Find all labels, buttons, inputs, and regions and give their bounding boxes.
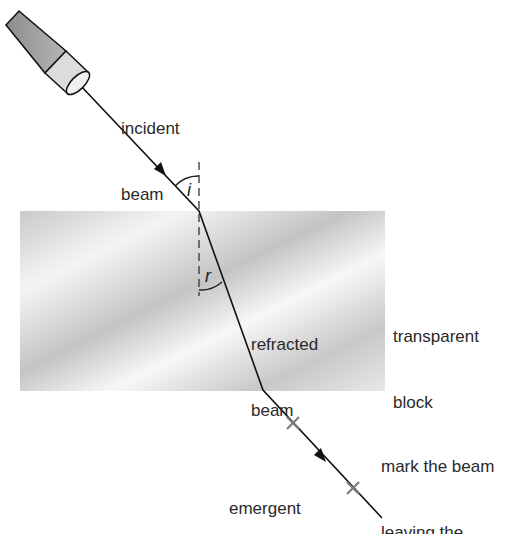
- angle-i-label: i: [187, 180, 191, 201]
- torch-icon: [6, 11, 93, 98]
- incident-beam-label: incident beam: [121, 74, 180, 228]
- cross-mark-2: [347, 482, 359, 494]
- instruction-label: mark the beam leaving the block with two…: [381, 412, 494, 534]
- refracted-beam-label: refracted beam: [251, 290, 318, 444]
- emergent-beam-label: emergent beam: [229, 454, 301, 534]
- transparent-block: [20, 211, 385, 391]
- angle-r-label: r: [205, 266, 211, 287]
